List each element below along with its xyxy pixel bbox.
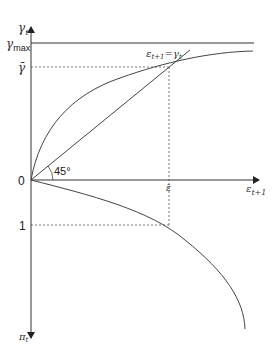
diagram-canvas: γt γmax γ̄ 0 1 45° ε̄ εt+1 πt εt+1=γt — [0, 0, 275, 356]
y-axis-top-label: γt — [18, 21, 29, 37]
angle-arc — [48, 166, 53, 180]
gamma-bar-label: γ̄ — [18, 61, 26, 75]
line-label: εt+1=γt — [146, 48, 182, 61]
one-label: 1 — [19, 219, 26, 233]
upper-curve — [31, 51, 253, 180]
45-degree-line — [31, 50, 190, 180]
angle-label: 45° — [54, 165, 71, 177]
gamma-max-label: γmax — [6, 37, 31, 53]
eps-bar-label: ε̄ — [166, 183, 171, 193]
origin-label: 0 — [18, 174, 25, 188]
y-axis-bottom-label: πt — [18, 331, 29, 344]
lower-curve — [31, 180, 245, 329]
x-axis-label: εt+1 — [246, 183, 266, 197]
